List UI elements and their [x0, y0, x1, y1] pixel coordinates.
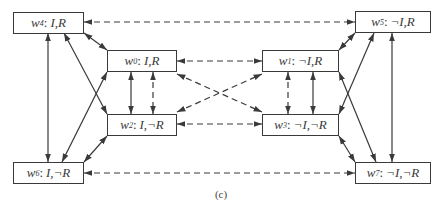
colon-separator: : — [379, 165, 383, 181]
world-valuation: I,¬R — [46, 165, 70, 181]
world-valuation: ¬I,R — [298, 53, 322, 69]
world-node-w0: w0:I,R — [107, 50, 177, 72]
world-valuation: ¬I,¬R — [386, 165, 419, 181]
world-name: w — [371, 14, 380, 30]
colon-separator: : — [291, 53, 295, 69]
world-name: w — [367, 165, 376, 181]
edge-w3-w7-solid — [339, 136, 355, 162]
edge-w6-w0-solid — [62, 72, 107, 162]
colon-separator: : — [137, 53, 141, 69]
colon-separator: : — [384, 14, 388, 30]
world-valuation: I,¬R — [140, 117, 164, 133]
edge-w4-w0-solid — [84, 33, 107, 50]
world-node-w2: w2:I,¬R — [107, 114, 177, 136]
world-node-w4: w4:I,R — [13, 12, 84, 34]
world-valuation: ¬I,¬R — [294, 117, 327, 133]
world-node-w7: w7:¬I,¬R — [355, 162, 431, 184]
edge-w5-w1-solid — [339, 33, 355, 50]
world-valuation: I,R — [144, 53, 160, 69]
world-valuation: ¬I,R — [391, 14, 415, 30]
figure-caption: (c) — [0, 188, 442, 200]
world-name: w — [120, 117, 129, 133]
world-valuation: I,R — [50, 15, 66, 31]
kripke-diagram: w4:I,Rw5:¬I,Rw0:I,Rw1:¬I,Rw2:I,¬Rw3:¬I,¬… — [0, 0, 442, 209]
world-node-w6: w6:I,¬R — [13, 162, 84, 184]
colon-separator: : — [133, 117, 137, 133]
edge-w1-w7-solid — [339, 72, 376, 162]
world-name: w — [274, 117, 283, 133]
colon-separator: : — [39, 165, 43, 181]
world-name: w — [279, 53, 288, 69]
world-name: w — [31, 15, 40, 31]
world-node-w3: w3:¬I,¬R — [262, 114, 339, 136]
world-node-w5: w5:¬I,R — [355, 11, 431, 33]
world-name: w — [27, 165, 36, 181]
colon-separator: : — [287, 117, 291, 133]
world-name: w — [125, 53, 134, 69]
colon-separator: : — [44, 15, 48, 31]
world-node-w1: w1:¬I,R — [262, 50, 339, 72]
edge-w2-w6-solid — [84, 136, 107, 162]
